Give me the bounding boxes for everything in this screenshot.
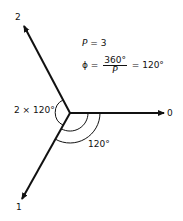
- angle-arc-left: [55, 100, 63, 125]
- label-1: 1: [16, 203, 22, 212]
- equation-phi: ϕ = 360° P = 120°: [82, 56, 164, 76]
- arrow-2: [24, 26, 70, 113]
- label-2: 2: [15, 13, 21, 22]
- angle-label-left: 2 × 120°: [14, 106, 55, 115]
- angle-label-bottom: 120°: [88, 140, 110, 149]
- fraction: 360° P: [103, 56, 127, 76]
- arrow-1: [22, 113, 70, 199]
- label-0: 0: [167, 109, 173, 118]
- equation-p: P = 3: [82, 39, 106, 48]
